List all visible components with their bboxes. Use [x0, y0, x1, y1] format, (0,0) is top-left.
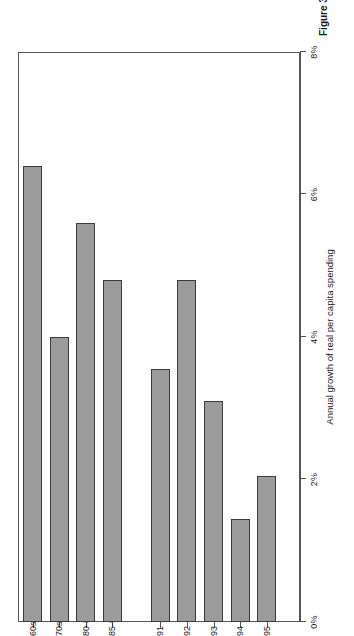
- figure-caption: Figure 3.1: [318, 0, 329, 36]
- bar: [231, 519, 250, 622]
- value-tick-label: 6%: [309, 188, 319, 201]
- value-tick: [300, 479, 306, 480]
- bar: [23, 166, 42, 622]
- value-tick: [300, 336, 306, 337]
- value-tick-label: 2%: [309, 473, 319, 486]
- value-tick: [300, 51, 306, 52]
- value-tick-label: 0%: [309, 615, 319, 628]
- bar: [177, 280, 196, 622]
- value-axis-line: [300, 52, 301, 622]
- bar: [103, 280, 122, 622]
- figure-container: 0%2%4%6%8% Annual growth of real per cap…: [0, 0, 354, 636]
- bar: [204, 401, 223, 622]
- value-tick: [300, 621, 306, 622]
- value-axis-title: Annual growth of real per capita spendin…: [324, 52, 335, 622]
- bar: [151, 369, 170, 622]
- bar: [50, 337, 69, 622]
- value-tick-label: 4%: [309, 330, 319, 343]
- bar: [76, 223, 95, 622]
- rotated-chart-canvas: 0%2%4%6%8% Annual growth of real per cap…: [0, 0, 354, 636]
- bar: [257, 476, 276, 622]
- value-tick-label: 8%: [309, 45, 319, 58]
- value-tick: [300, 194, 306, 195]
